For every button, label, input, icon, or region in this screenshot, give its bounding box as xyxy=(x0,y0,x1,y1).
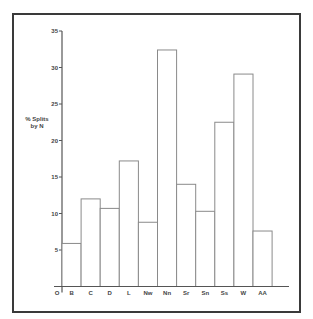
x-category-label: Sr xyxy=(183,290,190,296)
y-tick-label: 25 xyxy=(51,101,58,107)
bar-c xyxy=(81,199,100,287)
bar-nn xyxy=(158,50,177,287)
y-tick-label: 30 xyxy=(51,65,58,71)
x-category-label: Nw xyxy=(143,290,152,296)
y-tick-label: 20 xyxy=(51,138,58,144)
x-category-label: Sn xyxy=(201,290,209,296)
y-axis: 5101520253035 xyxy=(51,28,62,293)
x-category-label: B xyxy=(69,290,74,296)
x-category-label: Nn xyxy=(163,290,171,296)
bar-nw xyxy=(138,222,157,286)
y-axis-label-line-2: by N xyxy=(30,123,43,129)
bar-sn xyxy=(196,211,215,286)
bar-l xyxy=(119,161,138,287)
origin-label: O xyxy=(55,290,60,296)
bar-sr xyxy=(177,184,196,286)
y-tick-label: 15 xyxy=(51,174,58,180)
bar-w xyxy=(234,74,253,286)
bar-ss xyxy=(215,122,234,286)
x-category-label: W xyxy=(241,290,247,296)
x-category-label: D xyxy=(108,290,113,296)
y-tick-label: 5 xyxy=(55,247,59,253)
x-category-label: Ss xyxy=(221,290,229,296)
bar-chart: 5101520253035 BCDLNwNnSrSnSsWAA % Splits… xyxy=(0,0,313,319)
x-category-label: L xyxy=(127,290,131,296)
x-axis: BCDLNwNnSrSnSsWAA xyxy=(54,287,289,297)
y-tick-label: 35 xyxy=(51,28,58,34)
bar-d xyxy=(100,208,119,286)
bars xyxy=(62,50,272,287)
y-axis-label-line-1: % Splits xyxy=(25,116,49,122)
bar-aa xyxy=(253,231,272,286)
bar-b xyxy=(62,243,81,286)
x-category-label: C xyxy=(88,290,93,296)
x-category-label: AA xyxy=(258,290,267,296)
y-tick-label: 10 xyxy=(51,211,58,217)
